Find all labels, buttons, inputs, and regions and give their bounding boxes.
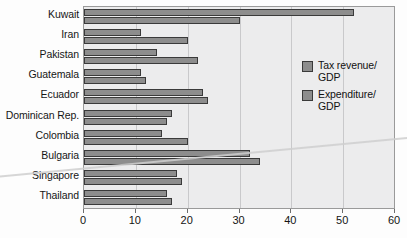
- bar-group: [84, 170, 395, 190]
- bar-group: [84, 29, 395, 49]
- x-tick-50: [342, 209, 343, 213]
- bar-colombia-series2: [84, 138, 188, 145]
- y-axis-label-bulgaria: Bulgaria: [0, 150, 79, 161]
- x-tick-label-60: 60: [388, 214, 400, 226]
- bar-group: [84, 190, 395, 210]
- x-tick-label-0: 0: [80, 214, 86, 226]
- x-tick-0: [83, 209, 84, 213]
- y-axis-label-thailand: Thailand: [0, 190, 79, 201]
- y-axis-label-kuwait: Kuwait: [0, 9, 79, 20]
- y-axis-label-guatemala: Guatemala: [0, 69, 79, 80]
- bar-chart: KuwaitIranPakistanGuatemalaEcuadorDomini…: [0, 0, 407, 238]
- chart-legend: Tax revenue/GDPExpenditure/GDP: [302, 60, 394, 118]
- bar-guatemala-series2: [84, 77, 146, 84]
- legend-swatch-1: [302, 61, 313, 72]
- bar-singapore-series1: [84, 170, 177, 177]
- bar-iran-series1: [84, 29, 141, 36]
- legend-item-1: Tax revenue/GDP: [302, 60, 394, 83]
- bar-group: [84, 9, 395, 29]
- x-tick-30: [239, 209, 240, 213]
- y-axis-label-dominican-rep: Dominican Rep.: [0, 110, 79, 121]
- x-tick-label-40: 40: [284, 214, 296, 226]
- legend-label-1: Tax revenue/GDP: [318, 60, 377, 83]
- bar-group: [84, 150, 395, 170]
- y-axis-label-colombia: Colombia: [0, 130, 79, 141]
- bar-dominican-rep-series1: [84, 110, 172, 117]
- x-tick-60: [394, 209, 395, 213]
- y-axis-category-labels: KuwaitIranPakistanGuatemalaEcuadorDomini…: [0, 6, 79, 209]
- y-axis-label-ecuador: Ecuador: [0, 89, 79, 100]
- bar-group: [84, 130, 395, 150]
- bar-kuwait-series2: [84, 17, 240, 24]
- y-axis-label-singapore: Singapore: [0, 170, 79, 181]
- bar-bulgaria-series1: [84, 150, 250, 157]
- bar-ecuador-series2: [84, 97, 208, 104]
- x-tick-label-10: 10: [129, 214, 141, 226]
- bar-thailand-series1: [84, 190, 167, 197]
- x-tick-40: [290, 209, 291, 213]
- bar-guatemala-series1: [84, 69, 141, 76]
- y-axis-label-pakistan: Pakistan: [0, 49, 79, 60]
- x-tick-label-50: 50: [336, 214, 348, 226]
- bar-dominican-rep-series2: [84, 118, 167, 125]
- x-tick-20: [187, 209, 188, 213]
- legend-swatch-2: [302, 90, 313, 101]
- bar-singapore-series2: [84, 178, 182, 185]
- bar-pakistan-series2: [84, 57, 198, 64]
- x-axis: 0102030405060: [83, 209, 396, 235]
- x-tick-10: [135, 209, 136, 213]
- y-axis-label-iran: Iran: [0, 29, 79, 40]
- bar-iran-series2: [84, 37, 188, 44]
- bar-colombia-series1: [84, 130, 162, 137]
- legend-item-2: Expenditure/GDP: [302, 89, 394, 112]
- bar-kuwait-series1: [84, 9, 354, 16]
- bar-thailand-series2: [84, 198, 172, 205]
- bar-bulgaria-series2: [84, 158, 260, 165]
- x-tick-label-30: 30: [232, 214, 244, 226]
- legend-label-2: Expenditure/GDP: [318, 89, 376, 112]
- bar-pakistan-series1: [84, 49, 157, 56]
- bar-ecuador-series1: [84, 89, 203, 96]
- x-tick-label-20: 20: [181, 214, 193, 226]
